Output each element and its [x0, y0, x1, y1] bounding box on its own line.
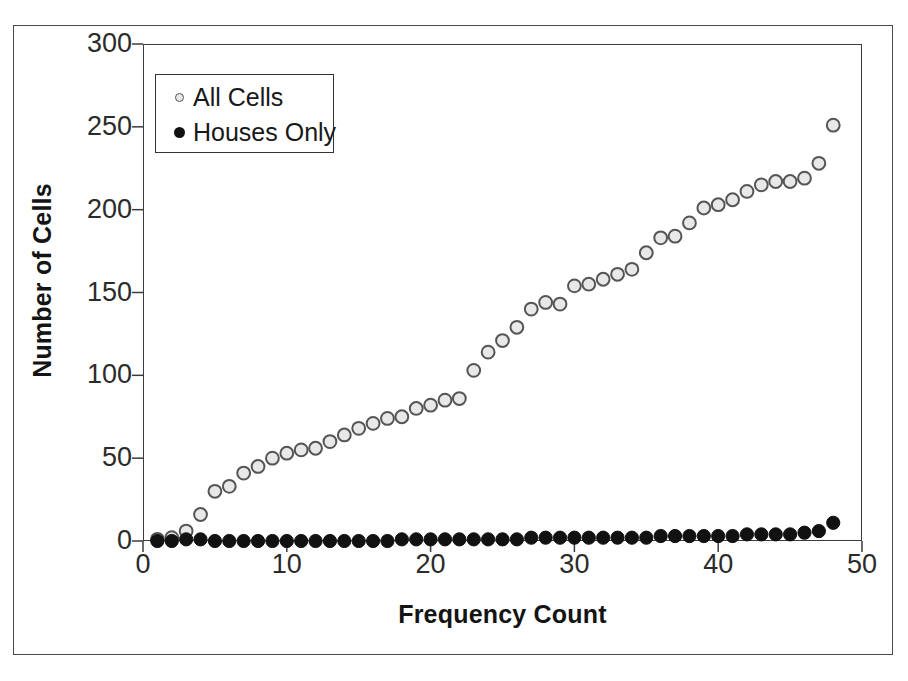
x-tick-label: 30 [539, 551, 609, 578]
y-tick-label: 300 [56, 30, 132, 57]
chart-legend: All Cells Houses Only [155, 74, 334, 153]
y-axis-title: Number of Cells [28, 131, 57, 431]
y-tick-label: 200 [56, 196, 132, 223]
y-tick-label: 150 [56, 279, 132, 306]
x-tick-label: 10 [252, 551, 322, 578]
y-tick-label: 100 [56, 361, 132, 388]
legend-item-all-cells: All Cells [168, 80, 333, 115]
x-tick-label: 40 [683, 551, 753, 578]
legend-label: Houses Only [193, 120, 336, 145]
scatter-chart: 0 50 100 150 200 250 300 0 10 20 30 40 5… [0, 0, 908, 681]
x-tick-label: 0 [108, 551, 178, 578]
x-axis-title: Frequency Count [143, 600, 862, 629]
y-axis-tick-labels: 0 50 100 150 200 250 300 [48, 44, 132, 541]
y-tick-label: 50 [56, 444, 132, 471]
legend-item-houses-only: Houses Only [168, 115, 333, 150]
y-tick-label: 0 [56, 527, 132, 554]
x-axis-tick-labels: 0 10 20 30 40 50 [143, 551, 862, 591]
x-tick-label: 20 [396, 551, 466, 578]
open-circle-icon [168, 93, 190, 102]
y-tick-label: 250 [56, 113, 132, 140]
filled-circle-icon [168, 127, 190, 138]
legend-label: All Cells [193, 85, 283, 110]
x-tick-label: 50 [827, 551, 897, 578]
